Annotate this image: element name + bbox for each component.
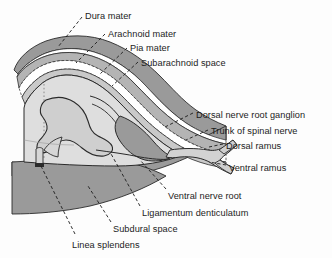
- label-arachnoid-mater: Arachnoid mater: [108, 29, 176, 40]
- label-subdural-space: Subdural space: [113, 224, 178, 235]
- label-linea-splendens: Linea splendens: [72, 240, 140, 251]
- label-dorsal-ramus: Dorsal ramus: [226, 141, 281, 152]
- label-trunk-of-spinal-nerve: Trunk of spinal nerve: [211, 126, 298, 137]
- label-ventral-nerve-root: Ventral nerve root: [168, 191, 241, 202]
- figure-container: Dura mater Arachnoid mater Pia mater Sub…: [0, 0, 332, 258]
- linea-splendens-shape: [36, 148, 43, 165]
- label-pia-mater: Pia mater: [130, 43, 170, 54]
- label-dura-mater: Dura mater: [85, 11, 131, 22]
- label-subarachnoid-space: Subarachnoid space: [141, 58, 226, 69]
- label-ligamentum-denticulatum: Ligamentum denticulatum: [142, 208, 248, 219]
- linea-splendens-tip: [35, 163, 44, 167]
- label-dorsal-nerve-root-ganglion: Dorsal nerve root ganglion: [196, 110, 305, 121]
- label-ventral-ramus: Ventral ramus: [229, 163, 286, 174]
- dura-mater-block-shape: [12, 159, 166, 214]
